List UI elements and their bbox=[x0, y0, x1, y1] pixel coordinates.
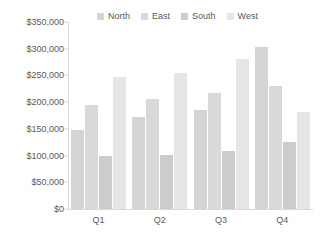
bar-east-q4[interactable] bbox=[269, 86, 282, 209]
bar-west-q1[interactable] bbox=[113, 77, 126, 209]
y-axis-tick-label: $200,000 bbox=[26, 97, 64, 107]
bar-south-q3[interactable] bbox=[222, 151, 235, 209]
y-axis-tick-mark bbox=[64, 48, 68, 49]
plot-area: $0$50,000$100,000$150,000$200,000$250,00… bbox=[0, 0, 321, 234]
bar-west-q2[interactable] bbox=[174, 73, 187, 209]
y-axis-tick-mark bbox=[64, 22, 68, 23]
bar-north-q1[interactable] bbox=[71, 130, 84, 209]
y-axis-tick-mark bbox=[64, 75, 68, 76]
bar-west-q4[interactable] bbox=[297, 112, 310, 209]
bar-east-q1[interactable] bbox=[85, 105, 98, 209]
y-axis-tick-label: $50,000 bbox=[31, 177, 64, 187]
x-axis-label-q3: Q3 bbox=[215, 215, 227, 225]
y-axis-tick-label: $350,000 bbox=[26, 17, 64, 27]
y-axis-tick-mark bbox=[64, 155, 68, 156]
bar-chart: NorthEastSouthWest $0$50,000$100,000$150… bbox=[0, 0, 321, 234]
bar-west-q3[interactable] bbox=[236, 59, 249, 209]
y-axis-tick-mark bbox=[64, 209, 68, 210]
bars-layer bbox=[68, 22, 313, 209]
bar-south-q2[interactable] bbox=[160, 155, 173, 209]
x-axis-label-q1: Q1 bbox=[93, 215, 105, 225]
bar-north-q2[interactable] bbox=[132, 117, 145, 209]
y-axis-tick-label: $100,000 bbox=[26, 151, 64, 161]
y-axis-tick-mark bbox=[64, 128, 68, 129]
bar-north-q3[interactable] bbox=[194, 110, 207, 209]
bar-south-q4[interactable] bbox=[283, 142, 296, 209]
y-axis-tick-label: $150,000 bbox=[26, 124, 64, 134]
x-axis-label-q4: Q4 bbox=[276, 215, 288, 225]
x-axis-label-q2: Q2 bbox=[154, 215, 166, 225]
x-axis-line bbox=[68, 209, 313, 210]
y-axis-tick-mark bbox=[64, 102, 68, 103]
y-axis-tick-label: $0 bbox=[54, 204, 64, 214]
bar-east-q2[interactable] bbox=[146, 99, 159, 209]
y-axis-tick-label: $250,000 bbox=[26, 70, 64, 80]
bar-south-q1[interactable] bbox=[99, 156, 112, 209]
y-axis-tick-label: $300,000 bbox=[26, 44, 64, 54]
y-axis-labels: $0$50,000$100,000$150,000$200,000$250,00… bbox=[8, 0, 64, 234]
y-axis-tick-mark bbox=[64, 182, 68, 183]
bar-north-q4[interactable] bbox=[255, 47, 268, 209]
bar-east-q3[interactable] bbox=[208, 93, 221, 209]
